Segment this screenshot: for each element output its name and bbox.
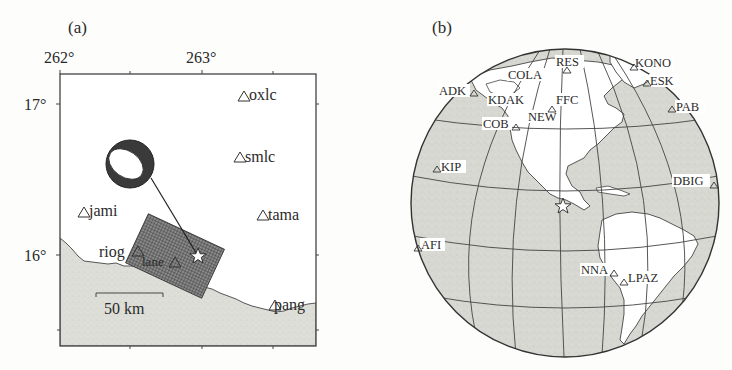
station-PAB[interactable]: PAB xyxy=(675,100,705,114)
station-label: KDAK xyxy=(488,93,524,107)
panel-b: (b) xyxy=(411,18,719,357)
station-label: smlc xyxy=(245,148,275,165)
x-tick-label-262: 262° xyxy=(44,49,74,66)
station-pang[interactable]: pang xyxy=(269,296,305,314)
station-DBIG[interactable]: DBIG xyxy=(672,174,710,188)
station-label: PAB xyxy=(676,100,699,114)
station-ESK[interactable]: ESK xyxy=(649,74,679,88)
station-label: FFC xyxy=(556,93,578,107)
station-label: KIP xyxy=(441,160,461,174)
station-label: jami xyxy=(88,202,118,220)
station-label: KONO xyxy=(635,56,671,70)
panel-b-label: (b) xyxy=(432,18,452,37)
station-label: COLA xyxy=(508,68,542,82)
station-NNA[interactable]: NNA xyxy=(580,263,610,277)
station-label: tama xyxy=(268,206,299,223)
station-label: lane xyxy=(142,254,164,269)
station-RES[interactable]: RES xyxy=(555,55,584,69)
station-label: pang xyxy=(274,296,305,314)
station-COB[interactable]: COB xyxy=(482,117,512,131)
station-label: DBIG xyxy=(673,174,704,188)
station-label: RES xyxy=(556,55,579,69)
station-label: oxlc xyxy=(249,86,277,103)
station-AFI[interactable]: AFI xyxy=(420,238,445,252)
station-FFC[interactable]: FFC xyxy=(555,93,584,107)
station-ADK[interactable]: ADK xyxy=(438,84,470,98)
station-label: ESK xyxy=(650,74,674,88)
y-tick-label-16: 16° xyxy=(24,247,46,264)
scale-bar-label: 50 km xyxy=(104,300,145,317)
station-KONO[interactable]: KONO xyxy=(634,56,674,70)
station-LPAZ[interactable]: LPAZ xyxy=(627,271,664,285)
y-tick-label-17: 17° xyxy=(24,96,46,113)
station-COLA[interactable]: COLA xyxy=(507,68,547,82)
station-label: riog xyxy=(99,243,125,261)
station-label: ADK xyxy=(439,84,466,98)
station-label: COB xyxy=(483,117,509,131)
station-KIP[interactable]: KIP xyxy=(440,160,466,174)
station-label: NNA xyxy=(581,263,608,277)
x-tick-label-263: 263° xyxy=(186,49,216,66)
station-label: LPAZ xyxy=(628,271,658,285)
figure-canvas: (a) 262° 263° 17° 16° xyxy=(0,0,732,370)
panel-a: (a) 262° 263° 17° 16° xyxy=(24,18,319,349)
station-label: AFI xyxy=(421,238,441,252)
station-KDAK[interactable]: KDAK xyxy=(487,93,529,107)
panel-a-label: (a) xyxy=(68,18,87,37)
